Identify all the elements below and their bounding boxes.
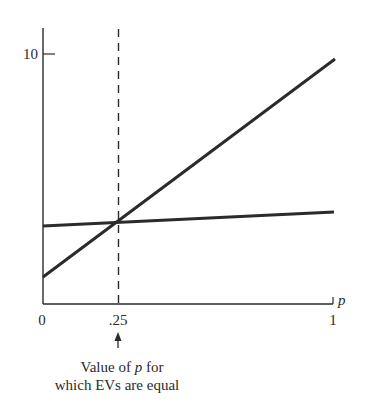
ev-chart: 10 p 0 .25 1 Value of p for which EVs ar… xyxy=(0,0,370,409)
annotation-arrow-icon xyxy=(115,332,122,341)
annotation-line-2: which EVs are equal xyxy=(55,377,180,393)
x-tick-label-1: 1 xyxy=(329,312,337,328)
annotation-line-1: Value of p for xyxy=(81,359,164,375)
x-axis-variable-label: p xyxy=(337,292,346,308)
annotation-line-1-prefix: Value of xyxy=(81,359,135,375)
flat-line-series xyxy=(43,212,334,226)
y-tick-label-10: 10 xyxy=(23,46,38,62)
annotation-line-1-suffix: for xyxy=(142,359,163,375)
steep-line-series xyxy=(43,59,335,277)
x-tick-label-0: 0 xyxy=(38,312,46,328)
x-tick-label-025: .25 xyxy=(109,312,128,328)
